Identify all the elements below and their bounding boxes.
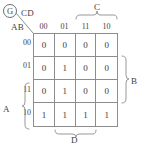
kmap-cell: 1 [55,80,76,103]
column-axis-label: CD [21,8,34,18]
circled-letter-icon: G [3,4,17,18]
kmap-cell: 0 [76,57,97,80]
column-header-3: 10 [96,22,117,31]
kmap-cell: 1 [96,103,117,126]
kmap-cell: 0 [96,80,117,103]
row-header-2: 11 [14,85,31,94]
kmap-cell: 0 [34,80,55,103]
kmap-cell: 1 [55,57,76,80]
kmap-cell: 1 [76,103,97,126]
kmap-cell: 1 [34,103,55,126]
column-header-2: 11 [75,22,96,31]
group-label-c: C [94,2,100,12]
kmap-cell: 0 [55,34,76,57]
column-header-0: 00 [33,22,54,31]
kmap-cell: 0 [96,34,117,57]
kmap-cell: 0 [96,57,117,80]
group-label-b: B [131,76,137,86]
row-axis-label: AB [11,22,24,32]
kmap-cell: 0 [34,57,55,80]
column-header-1: 01 [54,22,75,31]
kmap-cell: 1 [55,103,76,126]
group-label-a: A [3,104,10,114]
row-header-0: 00 [14,38,31,47]
kmap-cell: 0 [34,34,55,57]
group-label-d: D [71,135,78,145]
kmap-cell: 0 [76,80,97,103]
kmap-cell: 0 [76,34,97,57]
karnaugh-map-figure: G CD AB 00 01 11 10 00 01 11 10 0 0 0 0 … [0,0,145,150]
kmap-grid: 0 0 0 0 0 1 0 0 0 1 0 0 1 1 1 1 [33,33,118,127]
row-header-1: 01 [14,61,31,70]
row-header-3: 10 [14,108,31,117]
